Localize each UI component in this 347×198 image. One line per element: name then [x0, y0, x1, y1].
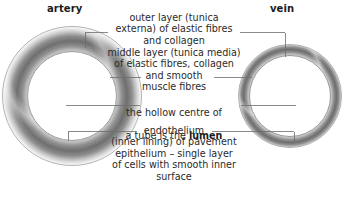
lumen-line-1: the hollow centre of — [126, 107, 222, 118]
artery-title: artery — [47, 3, 82, 14]
callout-endothelium: endothelium (inner lining) of pavement e… — [100, 125, 248, 182]
callout-outer-layer: outer layer (tunica externa) of elastic … — [109, 12, 239, 46]
vein-cross-section — [238, 44, 342, 148]
callout-middle-layer: middle layer (tunica media) of elastic f… — [104, 47, 244, 93]
vein-lumen-edge — [249, 55, 331, 137]
vessel-cross-section-diagram: artery vein outer layer (tunica externa)… — [0, 0, 347, 198]
vein-title: vein — [270, 3, 294, 14]
